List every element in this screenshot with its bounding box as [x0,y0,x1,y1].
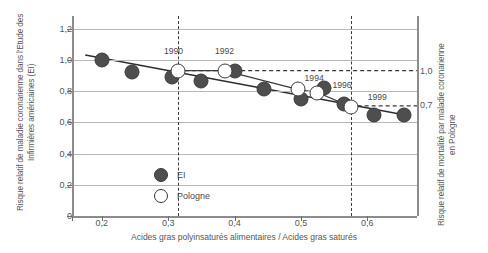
y-axis-ticks-right: 1,00,7 [420,0,452,253]
legend-label-pologne: Pologne [177,191,210,201]
legend-item-pologne: Pologne [154,185,210,206]
x-tick-mark [367,216,368,221]
data-point-ei [396,108,411,123]
gridline [72,185,417,186]
data-point-ei [94,52,109,67]
year-annotation: 1999 [368,92,387,102]
y-axis-label-left: Risque relatif de maladie coronarienne d… [16,12,37,212]
x-tick-mark [301,216,302,221]
year-annotation: 1994 [305,73,324,83]
x-axis-label: Acides gras polyinsaturés alimentaires /… [0,232,488,242]
x-tick-mark [235,216,236,221]
y-tick-mark [67,91,72,92]
x-axis-line [72,216,417,218]
x-tick-mark [102,216,103,221]
plot-area: EI Pologne 19901992199419961999 [72,16,417,216]
y-tick-mark [67,154,72,155]
x-tick-mark-origin [72,216,73,221]
gridline [72,122,417,123]
filled-circle-icon [154,168,168,182]
year-annotation: 1996 [332,80,351,90]
legend-label-ei: EI [177,170,186,180]
open-circle-icon [154,189,168,203]
data-point-pologne [310,85,325,100]
trendline-layer [72,16,417,216]
data-point-ei [257,82,272,97]
chart-figure: Risque relatif de maladie coronarienne d… [0,0,488,253]
y-axis-line-right [417,16,419,216]
data-point-ei [194,73,209,88]
data-point-pologne [217,63,232,78]
gridline [72,29,417,30]
y-tick-mark [67,185,72,186]
gridline [72,91,417,92]
y-tick-label-right: 1,0 [420,66,433,76]
year-annotation: 1992 [215,46,234,56]
gridline [72,154,417,155]
legend-item-ei: EI [154,164,210,185]
y-tick-mark [67,60,72,61]
y-tick-mark [67,122,72,123]
data-point-pologne [343,99,358,114]
data-point-ei [124,65,139,80]
data-point-ei [366,108,381,123]
chart-legend: EI Pologne [154,164,210,206]
data-point-pologne [290,82,305,97]
y-tick-mark [67,29,72,30]
year-annotation: 1990 [164,46,183,56]
gridline [72,60,417,61]
y-tick-label-right: 0,7 [420,100,433,110]
x-tick-mark [168,216,169,221]
data-point-pologne [171,63,186,78]
vertical-reference-line [351,16,352,216]
y-axis-line-left [72,16,74,216]
